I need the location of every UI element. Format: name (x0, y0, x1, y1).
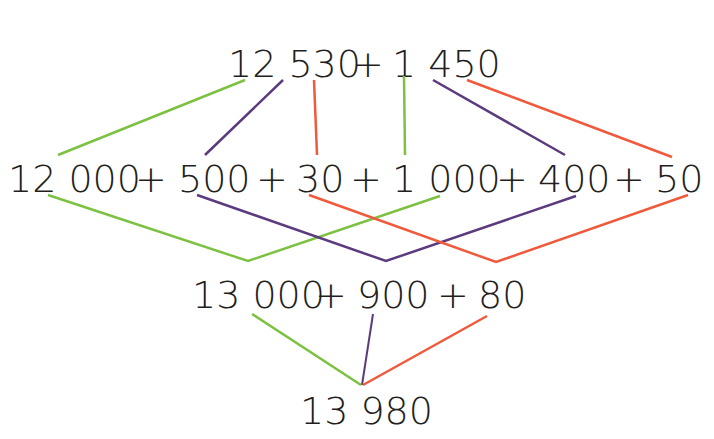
partition-diagram: 12 530 + 1 450 12 000 + 500 + 30 + 1 000… (0, 0, 714, 439)
row2-plus-3: + (350, 157, 382, 201)
row2-term-12000: 12 000 (8, 157, 141, 201)
row1-term-b: 1 450 (392, 42, 501, 86)
line-red-result (363, 316, 487, 385)
row3-term-80: 80 (478, 273, 526, 317)
split-lines (58, 76, 672, 157)
row3-plus-2: + (437, 273, 469, 317)
result-value: 13 980 (300, 389, 433, 433)
row3-plus-1: + (315, 273, 347, 317)
row2-plus-2: + (256, 157, 288, 201)
row1-plus: + (352, 42, 384, 86)
row2-plus-4: + (496, 157, 528, 201)
row2-term-500: 500 (178, 157, 251, 201)
row2-term-1000: 1 000 (392, 157, 501, 201)
line-green-thousands (48, 195, 440, 261)
row3-term-900: 900 (357, 273, 430, 317)
row2-plus-1: + (135, 157, 167, 201)
line-red-50 (467, 80, 672, 157)
row2-term-400: 400 (538, 157, 611, 201)
row1-term-a: 12 530 (228, 42, 361, 86)
row2-plus-5: + (613, 157, 645, 201)
result-lines (252, 314, 487, 385)
line-purple-result (362, 314, 373, 385)
row2-term-50: 50 (655, 157, 703, 201)
row3-term-13000: 13 000 (192, 273, 325, 317)
line-red-tens (309, 195, 688, 262)
row2-term-30: 30 (296, 157, 344, 201)
line-red-30 (314, 80, 317, 155)
line-green-result (252, 314, 361, 385)
combine-lines (48, 195, 688, 262)
diagram-canvas: 12 530 + 1 450 12 000 + 500 + 30 + 1 000… (0, 0, 714, 439)
line-green-1000 (404, 76, 405, 155)
line-purple-hundreds (197, 195, 576, 261)
